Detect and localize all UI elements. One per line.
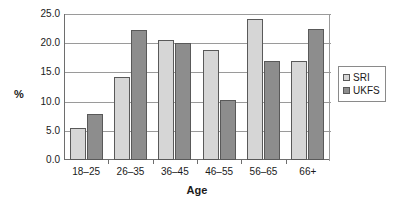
legend-item-sri[interactable]: SRI	[343, 71, 380, 84]
bar-sri-2	[158, 40, 174, 160]
chart-legend: SRIUKFS	[338, 66, 386, 102]
legend-swatch-icon	[343, 74, 350, 81]
bar-group	[64, 14, 108, 160]
legend-label: UKFS	[353, 85, 380, 96]
bars-layer	[64, 14, 330, 160]
y-axis-tick-label: 0.0	[28, 155, 60, 165]
bar-ukfs-4	[264, 61, 280, 160]
x-axis-tick-labels: 18–2526–3536–4546–5556–6566+	[64, 166, 330, 180]
legend-swatch-icon	[343, 87, 350, 94]
bar-sri-3	[203, 50, 219, 160]
x-axis-title: Age	[64, 184, 330, 196]
bar-ukfs-1	[131, 30, 147, 160]
x-axis-tick-label: 26–35	[108, 166, 152, 178]
x-axis-tick-mark	[108, 160, 109, 164]
bar-group	[286, 14, 330, 160]
bar-chart-figure: % 0.05.010.015.020.025.0 18–2526–3536–45…	[0, 0, 399, 207]
y-axis-tick-label: 10.0	[28, 97, 60, 107]
x-axis-tick-label: 36–45	[153, 166, 197, 178]
bar-ukfs-3	[220, 100, 236, 160]
bar-group	[153, 14, 197, 160]
bar-ukfs-5	[308, 29, 324, 160]
legend-label: SRI	[353, 72, 370, 83]
bar-sri-4	[247, 19, 263, 160]
y-axis-tick-label: 5.0	[28, 126, 60, 136]
x-axis-tick-mark	[197, 160, 198, 164]
x-axis-tick-label: 56–65	[241, 166, 285, 178]
bar-ukfs-2	[175, 43, 191, 160]
bar-sri-1	[114, 77, 130, 160]
y-axis-tick-label: 15.0	[28, 67, 60, 77]
x-axis-tick-label: 66+	[286, 166, 330, 178]
y-axis-tick-label: 20.0	[28, 38, 60, 48]
x-axis-tick-mark	[241, 160, 242, 164]
bar-sri-0	[70, 128, 86, 160]
bar-group	[108, 14, 152, 160]
x-axis-tick-label: 18–25	[64, 166, 108, 178]
bar-sri-5	[291, 61, 307, 160]
y-axis-tick-labels: 0.05.010.015.020.025.0	[28, 14, 60, 160]
legend-item-ukfs[interactable]: UKFS	[343, 84, 380, 97]
bar-ukfs-0	[87, 114, 103, 160]
x-axis-tick-mark	[286, 160, 287, 164]
x-axis-tick-mark	[153, 160, 154, 164]
bar-group	[197, 14, 241, 160]
bar-group	[241, 14, 285, 160]
x-axis-tick-label: 46–55	[197, 166, 241, 178]
y-axis-tick-label: 25.0	[28, 9, 60, 19]
y-axis-label: %	[8, 88, 30, 100]
